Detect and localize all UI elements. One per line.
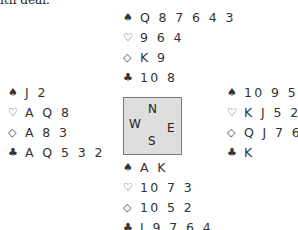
east-diamonds-cards: Q J 7 6 4 <box>244 123 298 143</box>
club-icon: ♣ <box>123 218 140 230</box>
compass-west-label: W <box>129 117 141 131</box>
club-icon: ♣ <box>8 143 25 163</box>
diamond-icon: ◇ <box>227 123 244 143</box>
south-hearts-cards: 10 7 3 <box>140 178 194 198</box>
north-hand: ♠Q 8 7 6 4 3 ♡9 6 4 ◇K 9 ♣10 8 <box>123 8 236 88</box>
diamond-icon: ◇ <box>123 198 140 218</box>
south-spades-row: ♠A K <box>123 158 213 178</box>
east-hand: ♠10 9 5 ♡K J 5 2 ◇Q J 7 6 4 ♣K <box>227 83 298 163</box>
east-hearts-row: ♡K J 5 2 <box>227 103 298 123</box>
club-icon: ♣ <box>123 68 140 88</box>
compass-south-label: S <box>148 134 156 148</box>
south-diamonds-row: ◇10 5 2 <box>123 198 213 218</box>
heart-icon: ♡ <box>8 103 25 123</box>
east-clubs-cards: K <box>244 143 255 163</box>
west-hearts-cards: A Q 8 <box>25 103 71 123</box>
south-spades-cards: A K <box>140 158 168 178</box>
heart-icon: ♡ <box>123 28 140 48</box>
compass-east-label: E <box>167 121 175 135</box>
south-clubs-cards: J 9 7 6 4 <box>140 218 213 230</box>
spade-icon: ♠ <box>123 8 140 28</box>
west-spades-cards: J 2 <box>25 83 48 103</box>
south-diamonds-cards: 10 5 2 <box>140 198 194 218</box>
compass-box: N W E S <box>123 97 182 155</box>
diamond-icon: ◇ <box>8 123 25 143</box>
west-hand: ♠J 2 ♡A Q 8 ◇A 8 3 ♣A Q 5 3 2 <box>8 83 105 163</box>
east-clubs-row: ♣K <box>227 143 298 163</box>
north-spades-cards: Q 8 7 6 4 3 <box>140 8 236 28</box>
west-clubs-row: ♣A Q 5 3 2 <box>8 143 105 163</box>
west-spades-row: ♠J 2 <box>8 83 105 103</box>
north-hearts-row: ♡9 6 4 <box>123 28 236 48</box>
west-diamonds-cards: A 8 3 <box>25 123 69 143</box>
heart-icon: ♡ <box>227 103 244 123</box>
club-icon: ♣ <box>227 143 244 163</box>
west-diamonds-row: ◇A 8 3 <box>8 123 105 143</box>
spade-icon: ♠ <box>227 83 244 103</box>
spade-icon: ♠ <box>8 83 25 103</box>
west-clubs-cards: A Q 5 3 2 <box>25 143 105 163</box>
south-hearts-row: ♡10 7 3 <box>123 178 213 198</box>
diamond-icon: ◇ <box>123 48 140 68</box>
east-hearts-cards: K J 5 2 <box>244 103 298 123</box>
east-diamonds-row: ◇Q J 7 6 4 <box>227 123 298 143</box>
north-diamonds-cards: K 9 <box>140 48 167 68</box>
compass-north-label: N <box>148 102 157 116</box>
heart-icon: ♡ <box>123 178 140 198</box>
east-spades-row: ♠10 9 5 <box>227 83 298 103</box>
west-hearts-row: ♡A Q 8 <box>8 103 105 123</box>
spade-icon: ♠ <box>123 158 140 178</box>
cropped-caption-text: ith deal. <box>0 0 50 7</box>
north-spades-row: ♠Q 8 7 6 4 3 <box>123 8 236 28</box>
south-hand: ♠A K ♡10 7 3 ◇10 5 2 ♣J 9 7 6 4 <box>123 158 213 230</box>
north-diamonds-row: ◇K 9 <box>123 48 236 68</box>
east-spades-cards: 10 9 5 <box>244 83 298 103</box>
north-clubs-cards: 10 8 <box>140 68 177 88</box>
north-clubs-row: ♣10 8 <box>123 68 236 88</box>
south-clubs-row: ♣J 9 7 6 4 <box>123 218 213 230</box>
north-hearts-cards: 9 6 4 <box>140 28 184 48</box>
